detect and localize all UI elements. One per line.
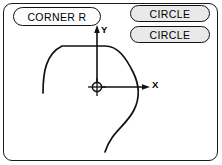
- softkey-circle-2[interactable]: CIRCLE: [130, 26, 210, 43]
- x-axis-arrowhead: [142, 84, 150, 90]
- cnc-geometry-screen: CORNER R CIRCLE CIRCLE Y X: [0, 0, 222, 165]
- y-axis-arrowhead: [94, 25, 100, 33]
- y-axis-label: Y: [101, 24, 107, 35]
- softkey-circle-1[interactable]: CIRCLE: [130, 5, 210, 22]
- contour-profile-curve: [43, 46, 138, 152]
- softkey-corner-r[interactable]: CORNER R: [13, 7, 101, 26]
- x-axis-label: X: [152, 79, 158, 90]
